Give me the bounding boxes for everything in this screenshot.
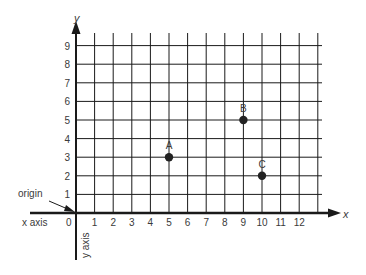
tick-labels: 123456789101112123456789 bbox=[64, 41, 305, 228]
point-label: B bbox=[240, 103, 247, 114]
y-tick-label: 3 bbox=[64, 152, 70, 163]
y-tick-label: 7 bbox=[64, 78, 70, 89]
y-tick-label: 8 bbox=[64, 59, 70, 70]
origin-label: origin bbox=[18, 188, 42, 199]
point-b bbox=[239, 116, 247, 124]
x-tick-label: 9 bbox=[241, 217, 247, 228]
origin-tick: 0 bbox=[66, 217, 72, 228]
y-tick-label: 4 bbox=[64, 134, 70, 145]
y-tick-label: 2 bbox=[64, 171, 70, 182]
point-a bbox=[165, 153, 173, 161]
x-tick-label: 12 bbox=[294, 217, 306, 228]
x-tick-label: 10 bbox=[256, 217, 268, 228]
origin-arrow-icon bbox=[64, 205, 75, 212]
point-label: A bbox=[166, 140, 173, 151]
y-axis-name: y axis bbox=[80, 232, 91, 258]
x-tick-label: 11 bbox=[275, 217, 286, 228]
y-tick-label: 6 bbox=[64, 96, 70, 107]
y-tick-label: 9 bbox=[64, 41, 70, 52]
x-tick-label: 6 bbox=[185, 217, 191, 228]
grid-lines bbox=[76, 33, 322, 213]
x-tick-label: 1 bbox=[92, 217, 98, 228]
coordinate-grid: x y x axis y axis 0 origin 1234567891011… bbox=[0, 0, 366, 275]
x-axis-letter: x bbox=[342, 208, 349, 220]
data-points: ABC bbox=[165, 103, 266, 180]
point-label: C bbox=[258, 159, 265, 170]
x-tick-label: 7 bbox=[203, 217, 209, 228]
x-tick-label: 5 bbox=[166, 217, 172, 228]
x-axis-arrow-icon bbox=[328, 209, 341, 218]
x-tick-label: 3 bbox=[129, 217, 135, 228]
y-axis-letter: y bbox=[73, 12, 81, 24]
x-tick-label: 8 bbox=[222, 217, 228, 228]
x-tick-label: 2 bbox=[110, 217, 116, 228]
point-c bbox=[258, 172, 266, 180]
x-tick-label: 4 bbox=[148, 217, 154, 228]
x-axis-name: x axis bbox=[22, 217, 48, 228]
y-tick-label: 1 bbox=[64, 189, 70, 200]
y-tick-label: 5 bbox=[64, 115, 70, 126]
